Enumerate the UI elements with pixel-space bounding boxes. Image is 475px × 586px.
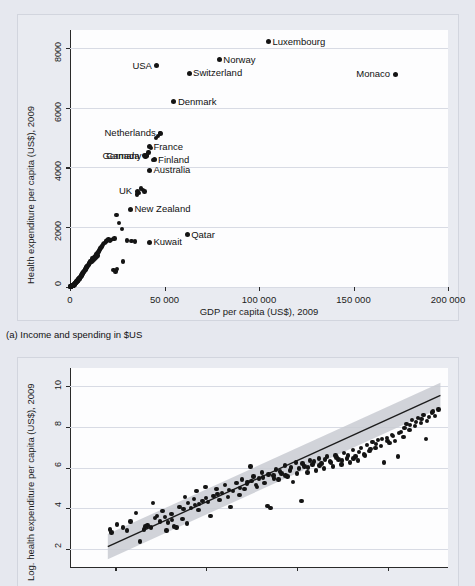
data-point <box>300 461 304 465</box>
data-point <box>294 460 298 464</box>
data-point <box>138 539 142 543</box>
data-point <box>317 463 321 467</box>
data-point <box>164 528 168 532</box>
data-point <box>237 493 241 497</box>
data-point <box>323 457 327 461</box>
data-point <box>289 465 293 469</box>
data-point <box>401 435 405 439</box>
figure-container: 02000400060008000 050 000100 000150 0002… <box>0 0 475 586</box>
data-point <box>413 424 417 428</box>
data-point <box>217 498 221 502</box>
data-point <box>346 453 350 457</box>
data-point <box>283 463 287 467</box>
data-point <box>396 454 400 458</box>
data-point <box>240 477 244 481</box>
data-point <box>340 458 344 462</box>
data-point <box>261 475 265 479</box>
data-point <box>297 466 301 470</box>
data-point <box>314 468 318 472</box>
data-point <box>249 479 253 483</box>
data-point <box>329 460 333 464</box>
data-point <box>283 473 287 477</box>
data-point <box>295 471 299 475</box>
data-point <box>322 466 326 470</box>
data-point <box>373 446 377 450</box>
data-point <box>291 480 295 484</box>
data-point <box>174 525 178 529</box>
data-point <box>215 492 219 496</box>
data-point <box>203 485 207 489</box>
data-point <box>414 420 418 424</box>
data-point <box>299 499 303 503</box>
data-point <box>348 460 352 464</box>
data-point <box>242 487 246 491</box>
data-point <box>334 455 338 459</box>
data-point <box>339 462 343 466</box>
data-point <box>143 524 147 528</box>
data-point <box>158 519 162 523</box>
data-point <box>433 414 437 418</box>
data-point <box>169 512 173 516</box>
data-point <box>194 489 198 493</box>
data-point <box>125 528 129 532</box>
data-point <box>317 456 321 460</box>
data-point <box>266 472 270 476</box>
panel-b-y-axis-title: Log. health expenditure per capita (US$)… <box>26 366 36 581</box>
data-point <box>196 508 200 512</box>
data-point <box>351 456 355 460</box>
data-point <box>115 522 119 526</box>
panel-b-confidence-band <box>0 0 475 586</box>
data-point <box>385 439 389 443</box>
data-point <box>278 469 282 473</box>
data-point <box>419 421 423 425</box>
data-point <box>436 407 440 411</box>
data-point <box>331 464 335 468</box>
data-point <box>185 521 189 525</box>
data-point <box>419 417 423 421</box>
data-point <box>248 464 252 468</box>
data-point <box>312 459 316 463</box>
data-point <box>260 470 264 474</box>
data-point <box>262 481 266 485</box>
data-point <box>234 481 238 485</box>
data-point <box>356 458 360 462</box>
data-point <box>402 426 406 430</box>
data-point <box>223 483 227 487</box>
data-point <box>268 506 272 510</box>
data-point <box>227 488 231 492</box>
data-point <box>128 519 132 523</box>
data-point <box>407 428 411 432</box>
data-point <box>431 409 435 413</box>
data-point <box>276 477 280 481</box>
data-point <box>305 470 309 474</box>
data-point <box>363 453 367 457</box>
data-point <box>214 487 218 491</box>
data-point <box>181 507 185 511</box>
data-point <box>382 460 386 464</box>
data-point <box>109 530 113 534</box>
data-point <box>306 465 310 469</box>
